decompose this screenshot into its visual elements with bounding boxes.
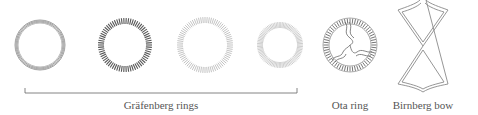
label-ota-ring: Ota ring <box>332 99 368 111</box>
label-grafenberg-rings: Gräfenberg rings <box>124 99 199 111</box>
grafenberg-ring-fine-coil <box>257 22 303 68</box>
birnberg-bow <box>398 0 448 92</box>
grafenberg-bracket <box>25 88 297 93</box>
ota-ring <box>323 18 377 72</box>
grafenberg-ring-sparse-coil <box>177 17 233 73</box>
grafenberg-ring-plain <box>15 20 65 70</box>
iud-diagram <box>0 0 478 115</box>
label-birnberg-bow: Birnberg bow <box>393 99 454 111</box>
grafenberg-ring-dense-coil <box>98 18 152 72</box>
